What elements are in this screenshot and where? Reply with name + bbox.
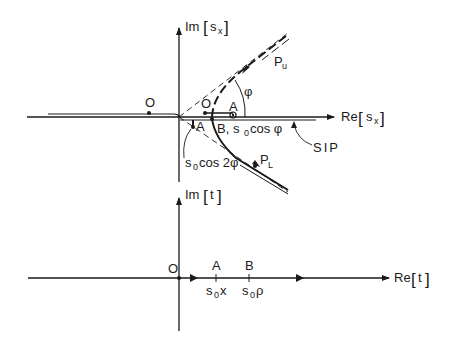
svg-text:cos φ: cos φ [250,121,282,136]
svg-text:O: O [168,261,178,276]
svg-text:[: [ [203,18,208,37]
svg-text:L: L [268,160,273,170]
svg-text:cos 2φ: cos 2φ [199,155,239,170]
sip-arrow-icon [291,121,297,128]
svg-text:[: [ [358,109,363,128]
svg-text:t: t [210,187,214,202]
pl-dot [253,164,257,168]
svg-text:ρ: ρ [256,283,263,298]
svg-text:x: x [218,26,223,36]
svg-text:]: ] [380,109,385,128]
origin-t-dot [177,276,181,280]
svg-text:A: A [229,99,238,114]
svg-text:]: ] [425,270,430,289]
svg-text:φ: φ [244,84,252,99]
svg-text:u: u [282,61,287,71]
im-t-prefix: Im [185,187,199,202]
svg-text:O: O [145,95,155,110]
svg-text:s: s [242,283,249,298]
svg-text:]: ] [217,187,222,206]
svg-text:0: 0 [193,162,198,172]
im-sx-prefix: Im [185,19,199,34]
svg-text:B, s: B, s [217,121,240,136]
path-pu [212,36,286,118]
svg-text:O: O [201,96,211,111]
flow-arrow-icon [190,274,198,282]
origin-right-dot [203,111,207,115]
svg-text:x: x [220,283,227,298]
svg-text:0: 0 [250,290,255,300]
point-b-dot [210,117,214,121]
re-t-prefix: Re [394,270,411,285]
origin-left-dot [147,111,151,115]
svg-text:]: ] [224,18,229,37]
flow-arrow-icon [296,274,304,282]
svg-text:s: s [210,19,217,34]
svg-text:SIP: SIP [313,140,340,155]
contour-diagram: Im [ s x ] Re [ s x ] O O A A B, s 0 cos… [0,0,449,346]
svg-text:x: x [374,116,379,126]
svg-text:s: s [185,155,192,170]
svg-text:s: s [206,283,213,298]
svg-text:0: 0 [244,128,249,138]
svg-text:0: 0 [214,290,219,300]
svg-text:[: [ [203,187,208,206]
upper-plane: Im [ s x ] Re [ s x ] O O A A B, s 0 cos… [27,18,385,194]
lower-plane: Im [ t ] Re [ t ] O A B s 0 x s 0 ρ [28,187,430,331]
svg-text:[: [ [411,270,416,289]
re-sx-prefix: Re [341,109,358,124]
svg-text:A: A [212,258,221,273]
svg-text:t: t [418,270,422,285]
svg-text:s: s [366,109,373,124]
svg-text:B: B [245,258,254,273]
svg-text:A: A [196,119,205,134]
